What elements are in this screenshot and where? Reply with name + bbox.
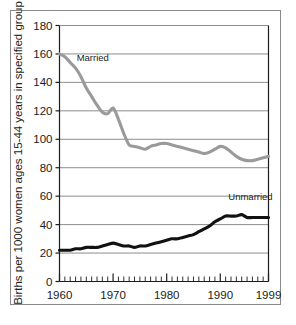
- plot-axes: [60, 26, 269, 282]
- y-tick-label: 180: [33, 20, 52, 32]
- y-tick-label: 60: [40, 190, 53, 202]
- y-axis-title: Births per 1000 women ages 15-44 years i…: [12, 1, 24, 305]
- x-tick-label: 1970: [100, 289, 126, 301]
- series-label-married: Married: [77, 52, 109, 63]
- series-line-married: [60, 54, 269, 161]
- line-chart: 0204060801001201401601801960197019801990…: [0, 0, 296, 325]
- y-tick-label: 40: [40, 219, 53, 231]
- figure-container: 0204060801001201401601801960197019801990…: [0, 0, 296, 325]
- y-tick-label: 0: [46, 276, 52, 288]
- y-tick-label: 20: [40, 247, 53, 259]
- x-axis: 19601970198019901999: [47, 274, 282, 301]
- series-label-unmarried: Unmarried: [228, 191, 272, 202]
- x-tick-label: 1990: [207, 289, 233, 301]
- chart-canvas: 0204060801001201401601801960197019801990…: [0, 0, 296, 325]
- y-axis-title-text: Births per 1000 women ages 15-44 years i…: [12, 1, 24, 305]
- x-tick-label: 1999: [256, 289, 282, 301]
- series-group: [60, 54, 269, 250]
- y-tick-label: 120: [33, 105, 52, 117]
- x-tick-label: 1960: [47, 289, 73, 301]
- series-line-unmarried: [60, 215, 269, 251]
- y-tick-label: 80: [40, 162, 53, 174]
- series-annotations: MarriedUnmarried: [77, 52, 273, 202]
- y-tick-label: 100: [33, 133, 52, 145]
- y-tick-label: 160: [33, 48, 52, 60]
- y-axis: 020406080100120140160180: [33, 20, 59, 288]
- x-tick-label: 1980: [154, 289, 180, 301]
- y-tick-label: 140: [33, 76, 52, 88]
